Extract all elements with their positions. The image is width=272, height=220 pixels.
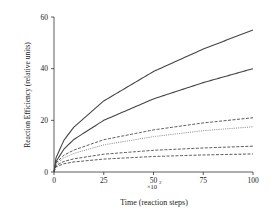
x-multiplier-exponent: 2 — [159, 180, 162, 185]
y-tick-label: 0 — [44, 168, 48, 177]
y-axis-label: Reaction Efficiency (relative units) — [23, 42, 32, 148]
x-tick-label: 0 — [52, 176, 56, 185]
y-tick-label: 20 — [41, 116, 49, 125]
y-tick-label: 60 — [41, 13, 49, 22]
chart-svg: 02040600255075100 Reaction Efficiency (r… — [0, 0, 272, 220]
x-tick-label: 25 — [100, 176, 108, 185]
series-line-curve-5 — [54, 146, 253, 172]
y-tick-label: 40 — [41, 64, 49, 73]
series-group — [54, 30, 253, 172]
reaction-efficiency-chart: 02040600255075100 Reaction Efficiency (r… — [0, 0, 272, 220]
x-tick-label: 100 — [247, 176, 259, 185]
series-line-curve-6 — [54, 154, 253, 172]
x-multiplier-base: ×10 — [147, 183, 157, 190]
series-line-curve-3 — [54, 118, 253, 172]
x-tick-label: 75 — [200, 176, 208, 185]
x-axis-label: Time (reaction steps) — [120, 198, 188, 207]
